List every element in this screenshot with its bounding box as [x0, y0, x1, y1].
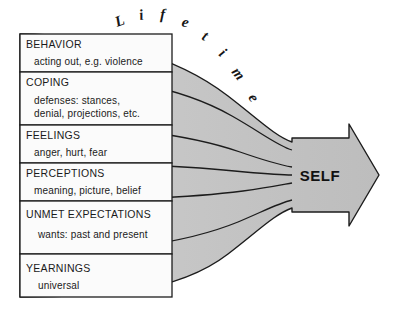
lifetime-letter-7: e: [245, 91, 262, 105]
layer-description-unmet-expectations-0: wants: past and present: [37, 229, 148, 240]
lifetime-letter-5: i: [216, 45, 230, 60]
layer-description-yearnings-0: universal: [38, 280, 79, 291]
iceberg-funnel-diagram: BEHAVIOR acting out, e.g. violence COPIN…: [0, 0, 397, 313]
layer-category-behavior: BEHAVIOR: [26, 38, 82, 50]
lifetime-letter-4: t: [200, 28, 212, 44]
label-boxes: [20, 34, 172, 297]
lifetime-letter-2: f: [160, 6, 168, 22]
layer-description-perceptions-0: meaning, picture, belief: [34, 185, 141, 196]
diagram-canvas: BEHAVIOR acting out, e.g. violence COPIN…: [0, 0, 397, 313]
layer-description-coping-0: defenses: stances,: [34, 95, 120, 106]
lifetime-letter-1: i: [138, 6, 146, 23]
layer-category-feelings: FEELINGS: [26, 129, 80, 141]
layer-category-perceptions: PERCEPTIONS: [26, 167, 105, 179]
lifetime-letter-3: e: [180, 13, 191, 30]
layer-description-coping-1: denial, projections, etc.: [34, 108, 140, 119]
lifetime-letter-0: L: [112, 12, 127, 31]
arrow-label-self: SELF: [300, 167, 340, 184]
layer-description-feelings-0: anger, hurt, fear: [34, 147, 108, 158]
layer-category-unmet-expectations: UNMET EXPECTATIONS: [26, 208, 151, 220]
lifetime-letter-6: m: [229, 64, 249, 83]
layer-description-behavior-0: acting out, e.g. violence: [34, 56, 143, 67]
layer-category-coping: COPING: [26, 76, 69, 88]
layer-category-yearnings: YEARNINGS: [26, 262, 91, 274]
